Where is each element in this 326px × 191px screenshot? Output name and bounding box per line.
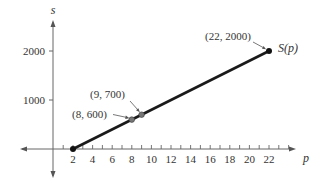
y-axis-label: s [51,3,56,17]
x-tick-label-22: 22 [264,153,275,165]
x-tick-label-14: 14 [185,153,197,165]
point-9-700 [139,112,145,118]
point-2-0 [70,146,76,152]
annotation-leaders [113,42,264,118]
x-tick-label-10: 10 [146,153,158,165]
annotation-8-600: (8, 600) [72,108,107,121]
x-tick-label-4: 4 [90,153,96,165]
y-tick-label-2000: 2000 [23,45,46,57]
point-8-600 [129,117,135,123]
data-line-S [73,51,269,149]
x-tick-label-16: 16 [205,153,217,165]
annotation-22-2000: (22, 2000) [205,30,251,43]
leader-arrowheads [125,46,266,119]
y-axis-up-arrow-icon [51,20,56,27]
y-tick-label-1000: 1000 [23,94,46,106]
x-tick-label-6: 6 [109,153,115,165]
x-tick-label-20: 20 [244,153,256,165]
x-axis-label: p [302,151,309,165]
x-tick-label-8: 8 [129,153,135,165]
y-ticks [49,51,53,100]
line-chart: 2000 1000 2 4 6 8 10 12 14 16 18 20 22 s… [0,0,326,191]
annotation-9-700: (9, 700) [90,88,125,101]
x-tick-label-18: 18 [224,153,236,165]
x-tick-label-12: 12 [166,153,177,165]
point-22-2000 [266,48,272,54]
x-axis-left-arrow-icon [20,147,27,152]
y-axis-down-arrow-icon [51,171,56,178]
x-ticks [63,145,288,149]
function-label: S(p) [278,41,298,55]
x-axis-right-arrow-icon [289,147,296,152]
x-tick-label-2: 2 [70,153,76,165]
